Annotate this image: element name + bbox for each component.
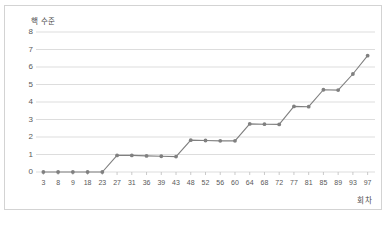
- data-point-marker: [115, 153, 119, 157]
- data-point-marker: [41, 170, 45, 174]
- data-point-marker: [351, 72, 355, 76]
- data-point-marker: [86, 170, 90, 174]
- data-point-marker: [174, 155, 178, 159]
- gridlines: [36, 32, 375, 172]
- data-point-marker: [307, 105, 311, 109]
- data-point-marker: [218, 139, 222, 143]
- data-point-marker: [277, 123, 281, 127]
- chart-container: 핵 수준 회차 012345678 3891823273136394348525…: [4, 5, 382, 210]
- data-point-marker: [189, 138, 193, 142]
- data-point-marker: [336, 88, 340, 92]
- data-point-marker: [292, 104, 296, 108]
- data-point-marker: [159, 154, 163, 158]
- data-point-marker: [366, 54, 370, 58]
- plot-area: 핵 수준 회차 012345678 3891823273136394348525…: [5, 6, 381, 209]
- data-point-marker: [263, 122, 267, 126]
- data-point-marker: [71, 170, 75, 174]
- data-point-marker: [322, 88, 326, 92]
- data-point-marker: [145, 154, 149, 158]
- series-markers: [41, 54, 369, 174]
- data-point-marker: [204, 139, 208, 143]
- data-point-marker: [248, 122, 252, 126]
- data-point-marker: [233, 139, 237, 143]
- data-point-marker: [56, 170, 60, 174]
- data-point-marker: [130, 153, 134, 157]
- data-point-marker: [100, 170, 104, 174]
- line-chart-svg: [5, 6, 383, 211]
